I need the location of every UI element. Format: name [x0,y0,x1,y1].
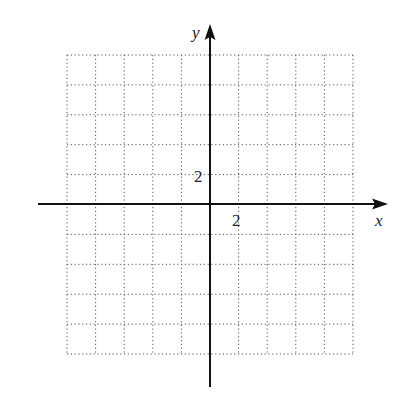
x-axis-label: x [374,211,383,230]
y-tick-label: 2 [194,167,203,186]
x-tick-label: 2 [232,211,241,230]
y-axis-label: y [190,23,200,42]
coordinate-plane: y x 2 2 [0,0,407,414]
